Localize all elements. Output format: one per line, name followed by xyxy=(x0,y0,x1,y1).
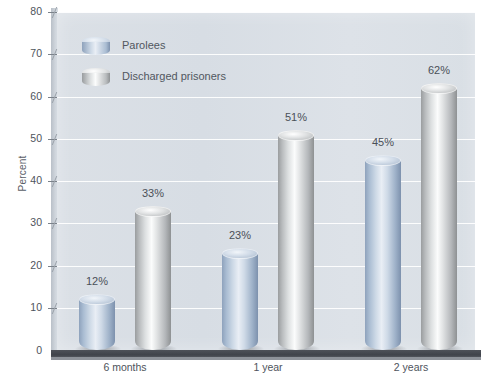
bar-top-cap xyxy=(421,83,457,94)
x-axis-category-label: 6 months xyxy=(77,361,173,373)
legend-label: Parolees xyxy=(122,39,165,51)
gridline xyxy=(57,308,475,309)
bar-value-label: 62% xyxy=(416,64,462,76)
bar-body xyxy=(278,135,314,350)
gridline xyxy=(57,266,475,267)
y-axis-tick-label: 10 xyxy=(0,301,42,313)
gridlines xyxy=(57,12,475,350)
silver-cylinder-icon xyxy=(82,68,110,86)
y-axis-tick xyxy=(48,223,57,224)
gridline xyxy=(57,54,475,55)
bar-blue xyxy=(222,253,258,350)
bar-top-cap xyxy=(365,155,401,166)
gridline xyxy=(57,223,475,224)
chart-floor-front xyxy=(51,357,481,360)
y-axis-tick-label: 60 xyxy=(0,90,42,102)
bar-value-label: 33% xyxy=(130,187,176,199)
y-axis-tick xyxy=(48,308,57,309)
y-axis-tick-label: 70 xyxy=(0,47,42,59)
bar-silver xyxy=(421,88,457,350)
bar-silver xyxy=(278,135,314,350)
bar-value-label: 45% xyxy=(360,136,406,148)
bar-top-cap xyxy=(135,206,171,217)
bar-blue xyxy=(365,160,401,350)
y-axis-tick-label: 30 xyxy=(0,216,42,228)
bar-body xyxy=(79,299,115,350)
bar-value-label: 12% xyxy=(74,275,120,287)
y-axis-tick-label: 40 xyxy=(0,174,42,186)
gridline xyxy=(57,181,475,182)
recidivism-cylinder-chart: Percent 80706050403020100 6 months1 year… xyxy=(0,0,488,382)
x-axis-category-label: 2 years xyxy=(363,361,459,373)
bar-body xyxy=(135,211,171,350)
bar-top-cap xyxy=(222,248,258,259)
legend-label: Discharged prisoners xyxy=(122,70,226,82)
y-axis-tick-label: 0 xyxy=(0,344,42,356)
y-axis-tick xyxy=(48,181,57,182)
y-axis-tick xyxy=(48,139,57,140)
bar-value-label: 51% xyxy=(273,111,319,123)
gridline xyxy=(57,139,475,140)
x-axis-category-label: 1 year xyxy=(220,361,316,373)
y-axis-tick xyxy=(48,266,57,267)
bar-body xyxy=(421,88,457,350)
bar-silver xyxy=(135,211,171,350)
plot-area xyxy=(57,12,475,350)
y-axis-tick-label: 80 xyxy=(0,5,42,17)
blue-cylinder-icon xyxy=(82,37,110,55)
gridline xyxy=(57,12,475,13)
y-axis-tick xyxy=(48,54,57,55)
bar-blue xyxy=(79,299,115,350)
bar-top-cap xyxy=(278,130,314,141)
bar-value-label: 23% xyxy=(217,229,263,241)
y-axis-tick-label: 50 xyxy=(0,132,42,144)
y-axis-tick xyxy=(48,97,57,98)
bar-body xyxy=(365,160,401,350)
gridline xyxy=(57,97,475,98)
y-axis-tick-label: 20 xyxy=(0,259,42,271)
bar-body xyxy=(222,253,258,350)
y-axis-tick xyxy=(48,12,57,13)
